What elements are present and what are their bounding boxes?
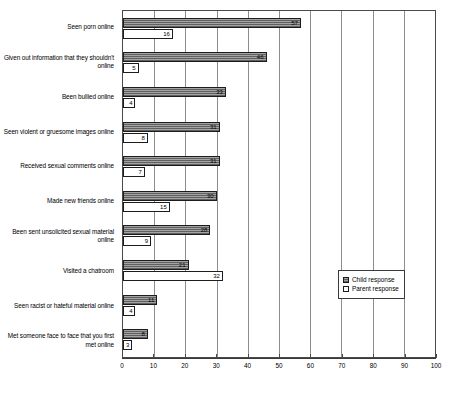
bar-row: 57 (123, 18, 435, 28)
bar-row: 4 (123, 306, 435, 316)
category-label: Made new friends online (0, 184, 118, 219)
x-axis-tick-label: 20 (181, 362, 188, 370)
legend-swatch-parent (343, 286, 349, 292)
bar-child: 28 (123, 225, 210, 235)
x-axis-tick-label: 50 (275, 362, 282, 370)
x-axis-tick (436, 354, 437, 358)
plot-area: 57164653343183173015289213211483 (122, 10, 436, 358)
bar-child: 11 (123, 295, 157, 305)
bar-value-label: 8 (142, 135, 145, 141)
x-axis-tick-label: 70 (338, 362, 345, 370)
bar-value-label: 5 (132, 65, 135, 71)
bar-child: 8 (123, 329, 148, 339)
x-axis-tick (310, 354, 311, 358)
bar-row: 30 (123, 191, 435, 201)
bar-value-label: 16 (163, 31, 170, 37)
x-axis-tick-label: 80 (370, 362, 377, 370)
legend-item: Child response (343, 276, 399, 284)
chart-legend: Child responseParent response (338, 270, 405, 299)
x-axis-tick (122, 354, 123, 358)
x-axis-tick (405, 354, 406, 358)
bar-parent: 32 (123, 271, 223, 281)
bar-row: 28 (123, 225, 435, 235)
bar-value-label: 3 (126, 342, 129, 348)
x-axis-tick-label: 100 (431, 362, 442, 370)
legend-swatch-child (343, 277, 349, 283)
bar-parent: 8 (123, 133, 148, 143)
category-label: Been sent unsolicited sexual material on… (0, 219, 118, 254)
bar-value-label: 28 (201, 227, 208, 233)
x-axis-line (122, 358, 436, 359)
x-axis-tick (248, 354, 249, 358)
bar-group: 289 (123, 219, 435, 254)
bar-row: 31 (123, 156, 435, 166)
bar-value-label: 33 (216, 89, 223, 95)
bars-layer: 57164653343183173015289213211483 (123, 11, 435, 357)
bar-parent: 16 (123, 29, 173, 39)
bar-group: 3015 (123, 184, 435, 219)
bar-child: 31 (123, 156, 220, 166)
bar-child: 33 (123, 87, 226, 97)
bar-row: 8 (123, 133, 435, 143)
bar-value-label: 57 (291, 20, 298, 26)
x-axis-tick-label: 10 (150, 362, 157, 370)
bar-parent: 5 (123, 63, 139, 73)
bar-parent: 4 (123, 306, 135, 316)
category-label: Met someone face to face that you first … (0, 323, 118, 358)
legend-item: Parent response (343, 285, 399, 293)
bar-value-label: 31 (210, 158, 217, 164)
bar-row: 16 (123, 29, 435, 39)
bar-chart: Seen porn onlineGiven out information th… (0, 0, 460, 394)
bar-value-label: 4 (129, 100, 132, 106)
bar-row: 9 (123, 236, 435, 246)
category-label: Been bullied online (0, 80, 118, 115)
bar-row: 3 (123, 340, 435, 350)
bar-group: 83 (123, 322, 435, 357)
category-axis: Seen porn onlineGiven out information th… (0, 10, 118, 358)
bar-parent: 15 (123, 202, 170, 212)
bar-value-label: 21 (179, 262, 186, 268)
bar-group: 334 (123, 80, 435, 115)
x-axis-tick (153, 354, 154, 358)
legend-label: Parent response (352, 285, 399, 293)
x-axis-tick-label: 30 (213, 362, 220, 370)
bar-group: 5716 (123, 11, 435, 46)
x-axis-tick-label: 0 (120, 362, 124, 370)
bar-value-label: 15 (160, 204, 167, 210)
legend-label: Child response (352, 276, 395, 284)
bar-child: 21 (123, 260, 189, 270)
bar-row: 7 (123, 167, 435, 177)
bar-row: 8 (123, 329, 435, 339)
bar-value-label: 31 (210, 124, 217, 130)
bar-parent: 3 (123, 340, 132, 350)
bar-child: 46 (123, 52, 267, 62)
bar-group: 318 (123, 115, 435, 150)
x-axis-tick-label: 60 (307, 362, 314, 370)
bar-row: 4 (123, 98, 435, 108)
bar-row: 21 (123, 260, 435, 270)
bar-value-label: 8 (142, 331, 145, 337)
bar-child: 30 (123, 191, 217, 201)
x-axis-tick (216, 354, 217, 358)
bar-child: 57 (123, 18, 301, 28)
bar-value-label: 46 (257, 54, 264, 60)
x-axis-tick (342, 354, 343, 358)
bar-child: 31 (123, 122, 220, 132)
bar-row: 46 (123, 52, 435, 62)
bar-value-label: 4 (129, 308, 132, 314)
bar-value-label: 9 (145, 238, 148, 244)
bar-row: 15 (123, 202, 435, 212)
bar-parent: 4 (123, 98, 135, 108)
bar-group: 317 (123, 149, 435, 184)
bar-value-label: 30 (207, 193, 214, 199)
x-axis-tick (373, 354, 374, 358)
category-label: Visited a chatroom (0, 254, 118, 289)
bar-value-label: 32 (213, 273, 220, 279)
x-axis: 0102030405060708090100 (122, 358, 436, 388)
x-axis-tick-label: 90 (401, 362, 408, 370)
bar-value-label: 11 (148, 297, 154, 303)
bar-row: 5 (123, 63, 435, 73)
x-axis-tick (185, 354, 186, 358)
category-label: Given out information that they shouldn'… (0, 45, 118, 80)
bar-value-label: 7 (138, 169, 141, 175)
